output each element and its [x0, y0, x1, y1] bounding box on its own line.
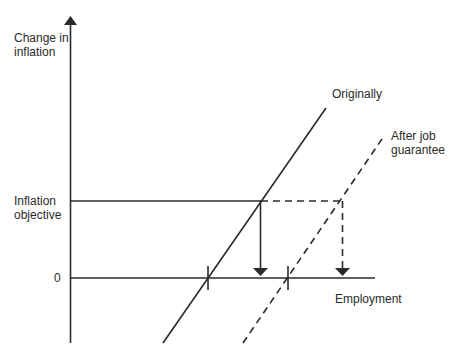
after-job-guarantee-label: After job guarantee [391, 129, 445, 157]
original-curve-label: Originally [332, 87, 382, 101]
y-axis-label: Change in inflation [14, 31, 69, 59]
after-drop-arrowhead-icon [335, 268, 350, 276]
original-curve [163, 108, 326, 343]
employment-axis-label: Employment [335, 292, 402, 306]
after-job-guarantee-curve [243, 136, 384, 343]
y-axis-arrowhead-icon [64, 16, 77, 25]
after-job-guarantee-label-line1: After job [391, 129, 445, 143]
original-drop-arrowhead-icon [253, 268, 268, 276]
inflation-objective-label-line2: objective [14, 208, 61, 222]
y-axis-label-line1: Change in [14, 31, 69, 45]
after-job-guarantee-label-line2: guarantee [391, 143, 445, 157]
inflation-objective-label: Inflation objective [14, 194, 61, 222]
y-axis-label-line2: inflation [14, 45, 69, 59]
inflation-objective-label-line1: Inflation [14, 194, 61, 208]
zero-label: 0 [54, 271, 61, 285]
